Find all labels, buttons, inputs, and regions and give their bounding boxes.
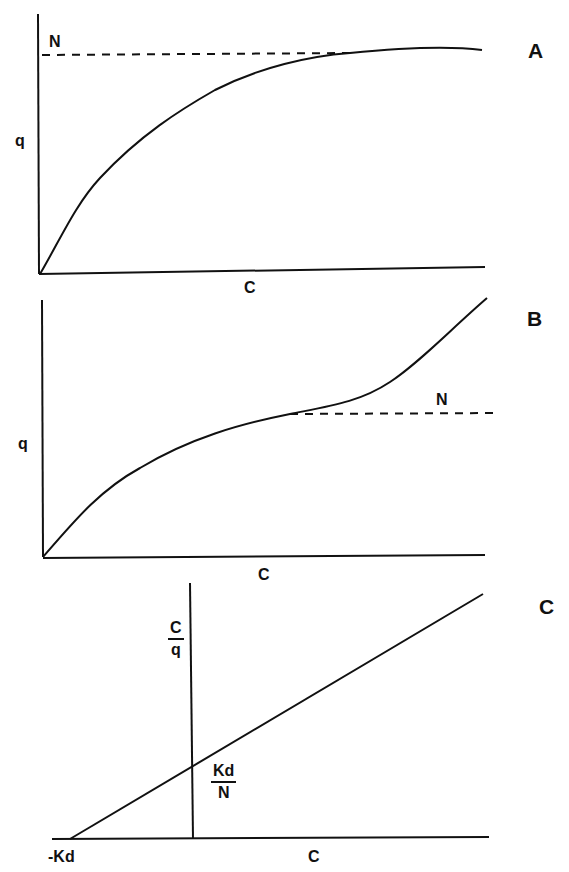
panel-b-x-axis-label: C bbox=[258, 567, 270, 583]
panel-c-linear-fit bbox=[70, 594, 483, 839]
panel-b-isotherm-curve bbox=[43, 298, 487, 557]
panel-c-intercept-label: Kd N bbox=[211, 763, 236, 801]
panel-c-x-axis-label: C bbox=[308, 849, 320, 865]
panel-b-asymptote-n bbox=[290, 413, 500, 414]
isotherm-figure bbox=[0, 0, 569, 872]
panel-b-asymptote-label: N bbox=[436, 392, 448, 408]
panel-a-plot bbox=[38, 14, 485, 274]
panel-c-x-axis bbox=[52, 837, 489, 839]
panel-b-y-axis-label: q bbox=[18, 436, 28, 452]
panel-a-y-axis-label: q bbox=[15, 133, 25, 149]
panel-b-plot bbox=[42, 298, 500, 558]
panel-c-intercept-denominator: N bbox=[211, 783, 236, 801]
panel-a-asymptote-n bbox=[42, 53, 350, 55]
panel-c-y-axis bbox=[190, 583, 193, 839]
panel-a-isotherm-curve bbox=[40, 48, 482, 274]
panel-b-x-axis bbox=[43, 555, 485, 558]
panel-a-x-axis-label: C bbox=[244, 280, 256, 296]
panel-a-label: A bbox=[528, 40, 543, 61]
panel-a-x-axis bbox=[39, 267, 485, 274]
panel-b-label: B bbox=[527, 308, 542, 329]
panel-c-plot bbox=[52, 583, 489, 839]
panel-c-intercept-numerator: Kd bbox=[211, 763, 236, 783]
panel-c-y-label-numerator: C bbox=[168, 620, 184, 640]
panel-b-y-axis bbox=[42, 300, 43, 557]
panel-a-y-axis bbox=[38, 14, 39, 274]
panel-c-label: C bbox=[539, 596, 554, 617]
panel-c-x-intercept-label: -Kd bbox=[48, 849, 75, 865]
panel-c-y-label-denominator: q bbox=[168, 640, 184, 658]
panel-a-asymptote-label: N bbox=[49, 34, 61, 50]
panel-c-y-axis-label: C q bbox=[168, 620, 184, 658]
